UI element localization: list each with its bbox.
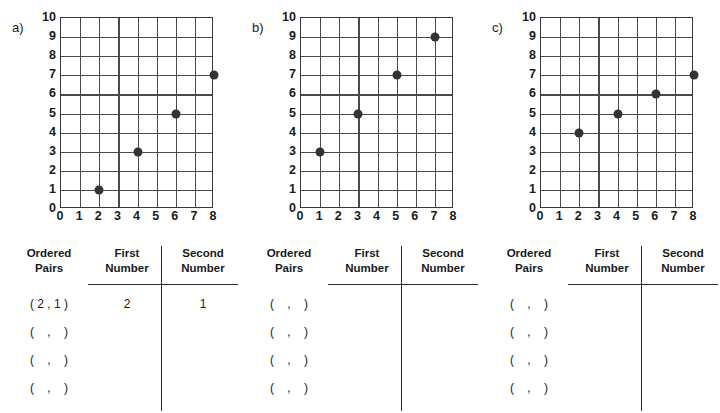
grid-hline bbox=[301, 56, 452, 57]
grid-vline bbox=[416, 18, 417, 207]
data-point-c-4-5 bbox=[613, 109, 622, 118]
y-axis-tick-c-6: 6 bbox=[508, 87, 536, 100]
grid-vline bbox=[157, 18, 158, 207]
grid-vline bbox=[99, 18, 100, 207]
y-axis-tick-a-8: 8 bbox=[28, 49, 56, 62]
y-axis-tick-a-10: 10 bbox=[28, 11, 56, 24]
y-axis-tick-c-4: 4 bbox=[508, 125, 536, 138]
header-second-number-c: Second Number bbox=[644, 246, 720, 275]
cell-first-number-a-1[interactable]: 2 bbox=[88, 298, 166, 310]
table-column-divider-c bbox=[641, 246, 642, 411]
y-axis-tick-a-6: 6 bbox=[28, 87, 56, 100]
header-ordered-pairs-b: Ordered Pairs bbox=[250, 246, 328, 275]
grid-hline bbox=[301, 171, 452, 172]
cell-ordered-pair-a-3[interactable]: ( , ) bbox=[10, 354, 88, 366]
y-axis-tick-c-10: 10 bbox=[508, 11, 536, 24]
x-axis-tick-a-4: 4 bbox=[127, 210, 147, 223]
grid-vline bbox=[435, 18, 436, 207]
x-axis-tick-b-0: 0 bbox=[290, 210, 310, 223]
grid-vline bbox=[138, 18, 139, 207]
y-axis-tick-c-2: 2 bbox=[508, 164, 536, 177]
grid-vline bbox=[80, 18, 81, 207]
cell-ordered-pair-a-2[interactable]: ( , ) bbox=[10, 326, 88, 338]
y-axis-tick-b-10: 10 bbox=[268, 11, 296, 24]
panel-letter-b: b) bbox=[252, 20, 264, 35]
x-axis-tick-a-6: 6 bbox=[165, 210, 185, 223]
grid-hline bbox=[541, 94, 692, 95]
grid-hline bbox=[61, 37, 212, 38]
header-second-number-b: Second Number bbox=[404, 246, 482, 275]
x-axis-tick-c-1: 1 bbox=[549, 210, 569, 223]
x-axis-tick-c-7: 7 bbox=[664, 210, 684, 223]
cell-second-number-a-1[interactable]: 1 bbox=[164, 298, 242, 310]
y-axis-tick-a-1: 1 bbox=[28, 183, 56, 196]
grid-hline bbox=[61, 114, 212, 115]
x-axis-a: 012345678 bbox=[60, 210, 213, 228]
table-column-divider-b bbox=[401, 246, 402, 411]
panel-letter-a: a) bbox=[12, 20, 24, 35]
grid-hline bbox=[301, 75, 452, 76]
grid-vline bbox=[675, 18, 676, 207]
cell-ordered-pair-b-4[interactable]: ( , ) bbox=[250, 382, 328, 394]
x-axis-tick-b-6: 6 bbox=[405, 210, 425, 223]
grid-hline bbox=[61, 133, 212, 134]
table-header-rule-b bbox=[328, 284, 478, 285]
data-point-b-3-5 bbox=[354, 109, 363, 118]
x-axis-c: 012345678 bbox=[540, 210, 693, 228]
x-axis-tick-b-5: 5 bbox=[386, 210, 406, 223]
x-axis-tick-c-6: 6 bbox=[645, 210, 665, 223]
cell-ordered-pair-b-2[interactable]: ( , ) bbox=[250, 326, 328, 338]
grid-vline bbox=[598, 18, 599, 207]
header-ordered-pairs-a: Ordered Pairs bbox=[10, 246, 88, 275]
y-axis-tick-c-5: 5 bbox=[508, 106, 536, 119]
x-axis-tick-a-7: 7 bbox=[184, 210, 204, 223]
x-axis-tick-a-5: 5 bbox=[146, 210, 166, 223]
cell-ordered-pair-a-4[interactable]: ( , ) bbox=[10, 382, 88, 394]
grid-hline bbox=[301, 133, 452, 134]
ordered-pairs-table-a: Ordered PairsFirst NumberSecond Number( … bbox=[6, 246, 238, 411]
cell-ordered-pair-c-2[interactable]: ( , ) bbox=[490, 326, 568, 338]
grid-hline bbox=[61, 190, 212, 191]
plot-c: c)109876543210012345678 bbox=[480, 0, 720, 232]
grid-vline bbox=[637, 18, 638, 207]
y-axis-tick-c-9: 9 bbox=[508, 30, 536, 43]
data-point-b-1-3 bbox=[316, 147, 325, 156]
x-axis-tick-c-5: 5 bbox=[626, 210, 646, 223]
y-axis-tick-b-2: 2 bbox=[268, 164, 296, 177]
y-axis-tick-b-8: 8 bbox=[268, 49, 296, 62]
x-axis-tick-a-0: 0 bbox=[50, 210, 70, 223]
panel-c: c)109876543210012345678Ordered PairsFirs… bbox=[480, 0, 720, 413]
plot-b: b)109876543210012345678 bbox=[240, 0, 480, 232]
grid-vline bbox=[397, 18, 398, 207]
coordinate-grid-a bbox=[60, 17, 213, 208]
grid-hline bbox=[61, 171, 212, 172]
y-axis-tick-b-9: 9 bbox=[268, 30, 296, 43]
panel-b: b)109876543210012345678Ordered PairsFirs… bbox=[240, 0, 480, 413]
x-axis-tick-c-0: 0 bbox=[530, 210, 550, 223]
y-axis-tick-a-5: 5 bbox=[28, 106, 56, 119]
data-point-a-8-7 bbox=[210, 71, 219, 80]
grid-vline bbox=[339, 18, 340, 207]
y-axis-c: 109876543210 bbox=[508, 10, 536, 215]
x-axis-tick-a-3: 3 bbox=[107, 210, 127, 223]
y-axis-tick-c-7: 7 bbox=[508, 68, 536, 81]
x-axis-tick-b-3: 3 bbox=[347, 210, 367, 223]
cell-ordered-pair-b-1[interactable]: ( , ) bbox=[250, 298, 328, 310]
y-axis-tick-b-5: 5 bbox=[268, 106, 296, 119]
grid-hline bbox=[301, 37, 452, 38]
grid-hline bbox=[541, 152, 692, 153]
cell-ordered-pair-c-1[interactable]: ( , ) bbox=[490, 298, 568, 310]
cell-ordered-pair-c-3[interactable]: ( , ) bbox=[490, 354, 568, 366]
coordinate-grid-c bbox=[540, 17, 693, 208]
y-axis-tick-a-2: 2 bbox=[28, 164, 56, 177]
cell-ordered-pair-b-3[interactable]: ( , ) bbox=[250, 354, 328, 366]
cell-ordered-pair-c-4[interactable]: ( , ) bbox=[490, 382, 568, 394]
grid-hline bbox=[301, 94, 452, 95]
x-axis-tick-c-4: 4 bbox=[607, 210, 627, 223]
cell-ordered-pair-a-1[interactable]: ( 2 , 1 ) bbox=[10, 298, 88, 310]
data-point-c-8-7 bbox=[690, 71, 699, 80]
grid-hline bbox=[61, 56, 212, 57]
y-axis-tick-c-1: 1 bbox=[508, 183, 536, 196]
y-axis-tick-c-3: 3 bbox=[508, 144, 536, 157]
grid-vline bbox=[560, 18, 561, 207]
